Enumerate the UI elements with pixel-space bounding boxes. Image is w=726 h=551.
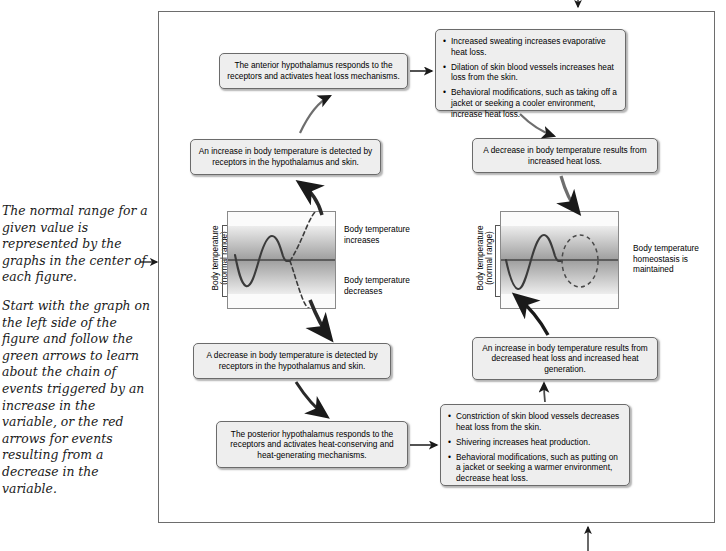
box-increase-result-text: An increase in body temperature results …	[480, 343, 650, 375]
figure-caption: The normal range for a given value is re…	[2, 203, 152, 509]
axis-title-line1: Body temperature	[211, 225, 220, 290]
box-anterior-hypothalamus[interactable]: The anterior hypothalamus responds to th…	[219, 53, 408, 89]
left-graph-annotation-bottom: Body temperature decreases	[344, 275, 434, 296]
box-increase-detected[interactable]: An increase in body temperature is detec…	[190, 139, 381, 175]
box-posterior-hypothalamus[interactable]: The posterior hypothalamus responds to t…	[216, 421, 408, 468]
caption-paragraph-2: Start with the graph on the left side of…	[2, 298, 152, 497]
heat-generation-list: Constriction of skin blood vessels decre…	[448, 411, 622, 484]
axis-title-line2: (normal range)	[485, 231, 494, 285]
box-anterior-hypothalamus-text: The anterior hypothalamus responds to th…	[227, 60, 400, 81]
axis-title-line1: Body temperature	[476, 225, 485, 290]
right-graph-axis-title: Body temperature (normal range)	[476, 208, 495, 308]
box-heat-loss-effects[interactable]: Increased sweating increases evaporative…	[435, 29, 626, 111]
list-item: Increased sweating increases evaporative…	[443, 36, 618, 57]
box-decrease-detected[interactable]: A decrease in body temperature is detect…	[193, 343, 391, 379]
box-decrease-result-text: A decrease in body temperature results f…	[480, 145, 650, 166]
list-item: Behavioral modifications, such as puttin…	[448, 452, 622, 484]
left-graph-range-bracket	[222, 225, 227, 297]
right-graph-svg	[501, 212, 618, 308]
box-heat-generation-effects[interactable]: Constriction of skin blood vessels decre…	[440, 404, 630, 486]
right-graph-plot	[500, 211, 619, 309]
box-posterior-hypothalamus-text: The posterior hypothalamus responds to t…	[224, 429, 400, 461]
list-item: Dilation of skin blood vessels increases…	[443, 62, 618, 83]
box-decrease-result[interactable]: A decrease in body temperature results f…	[472, 138, 658, 173]
box-increase-detected-text: An increase in body temperature is detec…	[198, 146, 373, 167]
list-item: Behavioral modifications, such as taking…	[443, 87, 618, 119]
left-graph-annotation-top: Body temperature increases	[344, 224, 434, 245]
caption-paragraph-1: The normal range for a given value is re…	[2, 203, 152, 286]
figure-stage: The normal range for a given value is re…	[0, 0, 726, 551]
left-graph-svg	[228, 212, 335, 308]
heat-loss-list: Increased sweating increases evaporative…	[443, 36, 618, 119]
left-graph-plot	[227, 211, 336, 309]
list-item: Shivering increases heat production.	[448, 437, 622, 448]
right-graph-annotation: Body temperature homeostasis is maintain…	[633, 243, 721, 275]
right-graph-range-bracket	[495, 225, 500, 297]
box-decrease-detected-text: A decrease in body temperature is detect…	[201, 350, 383, 371]
box-increase-result[interactable]: An increase in body temperature results …	[472, 337, 658, 380]
list-item: Constriction of skin blood vessels decre…	[448, 411, 622, 432]
